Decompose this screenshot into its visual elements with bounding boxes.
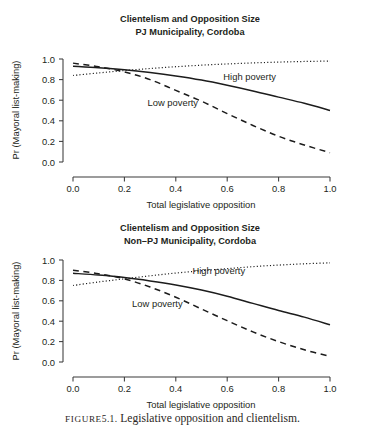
chart-title-pj: Clientelism and Opposition Size — [120, 14, 260, 24]
x-tick-label: 0.0 — [66, 183, 79, 194]
x-axis-pj: 0.0 0.2 0.4 0.6 0.8 1.0 Total legislativ… — [66, 177, 336, 210]
plot-annotations-pj: High povertyLow poverty — [148, 71, 277, 108]
x-tick-label: 0.8 — [272, 383, 285, 394]
caption-number: 5.1. — [102, 413, 118, 424]
curve-medium-pooled — [73, 273, 330, 325]
y-tick-label: 0.4 — [42, 115, 55, 126]
y-tick-label: 0.6 — [42, 295, 55, 306]
x-axis-ticks — [73, 377, 330, 382]
chart-svg-pj: Clientelism and Opposition Size PJ Munic… — [0, 0, 365, 215]
chart-subtitle-nonpj: Non–PJ Municipality, Cordoba — [124, 236, 257, 246]
x-axis-title-nonpj: Total legislative opposition — [147, 399, 256, 410]
y-tick-label: 1.0 — [42, 255, 55, 266]
caption-prefix: FIGURE — [65, 414, 102, 424]
y-axis-title-nonpj: Pr (Mayoral list-making) — [10, 262, 21, 361]
x-axis-title-pj: Total legislative opposition — [147, 199, 256, 210]
y-axis-title-pj: Pr (Mayoral list-making) — [10, 61, 21, 160]
y-axis-nonpj: 1.0 0.8 0.6 0.4 0.2 0.0 Pr (Mayoral list… — [10, 255, 63, 368]
low-poverty-label: Low poverty — [132, 298, 183, 309]
high-poverty-label: High poverty — [223, 71, 276, 82]
curve-medium-pooled — [73, 66, 330, 110]
y-axis-ticks — [59, 59, 63, 162]
x-tick-label: 0.2 — [118, 383, 131, 394]
y-axis-pj: 1.0 0.8 0.6 0.4 0.2 0.0 Pr (Mayoral list… — [10, 54, 63, 168]
x-tick-label: 0.6 — [221, 183, 234, 194]
caption-text: Legislative opposition and clientelism. — [120, 412, 300, 425]
x-axis-nonpj: 0.0 0.2 0.4 0.6 0.8 1.0 Total legislativ… — [66, 377, 336, 410]
x-tick-label: 1.0 — [323, 183, 336, 194]
curve-low-poverty — [73, 63, 330, 153]
chart-svg-nonpj: Clientelism and Opposition Size Non–PJ M… — [0, 215, 365, 410]
high-poverty-label: High poverty — [193, 265, 246, 276]
y-axis-ticks — [59, 260, 63, 362]
y-tick-label: 0.2 — [42, 336, 55, 347]
low-poverty-label: Low poverty — [148, 97, 199, 108]
y-tick-label: 0.4 — [42, 316, 55, 327]
chart-title-nonpj: Clientelism and Opposition Size — [120, 223, 260, 233]
x-tick-label: 0.8 — [272, 183, 285, 194]
chart-subtitle-pj: PJ Municipality, Cordoba — [135, 27, 245, 37]
x-tick-label: 0.4 — [169, 183, 182, 194]
y-tick-label: 0.0 — [42, 357, 55, 368]
y-tick-label: 0.0 — [42, 157, 55, 168]
x-tick-label: 0.6 — [221, 383, 234, 394]
plot-curves-pj — [73, 61, 330, 153]
y-tick-label: 1.0 — [42, 54, 55, 65]
y-tick-label: 0.6 — [42, 95, 55, 106]
y-tick-label: 0.8 — [42, 275, 55, 286]
x-tick-label: 0.4 — [169, 383, 182, 394]
x-tick-label: 0.0 — [66, 383, 79, 394]
figure-5-1: Clientelism and Opposition Size PJ Munic… — [0, 0, 365, 444]
plot-curves-nonpj — [73, 263, 330, 357]
chart-panel-nonpj: Clientelism and Opposition Size Non–PJ M… — [0, 215, 365, 410]
chart-panel-pj: Clientelism and Opposition Size PJ Munic… — [0, 0, 365, 215]
x-axis-ticks — [73, 177, 330, 182]
y-tick-label: 0.8 — [42, 74, 55, 85]
figure-caption: FIGURE5.1. Legislative opposition and cl… — [0, 412, 365, 425]
x-tick-label: 0.2 — [118, 183, 131, 194]
x-tick-label: 1.0 — [323, 383, 336, 394]
y-tick-label: 0.2 — [42, 136, 55, 147]
